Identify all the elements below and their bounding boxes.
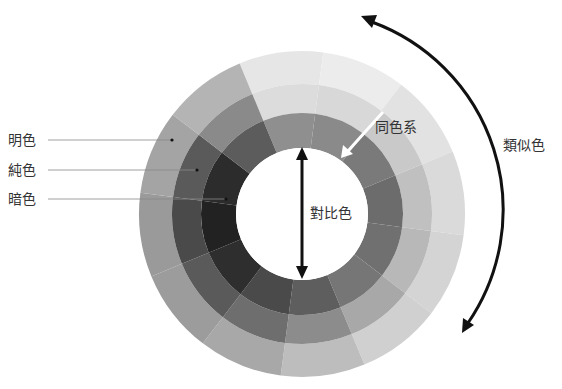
arrowhead-bottom-icon: [462, 318, 474, 333]
leader-dot-pure: [195, 168, 198, 171]
leader-dot-dark: [224, 197, 227, 200]
label-pure-hue: 純色: [8, 162, 36, 178]
color-wheel-diagram: 明色 純色 暗色 同色系 類似色 對比色: [0, 0, 562, 389]
label-same-hue: 同色系: [375, 119, 417, 135]
label-complementary: 對比色: [310, 205, 352, 221]
label-dark-shade: 暗色: [8, 191, 36, 207]
leader-dot-light: [170, 138, 173, 141]
color-wheel: [0, 0, 562, 389]
label-light-tint: 明色: [8, 132, 36, 148]
label-analogous: 類似色: [503, 137, 545, 153]
